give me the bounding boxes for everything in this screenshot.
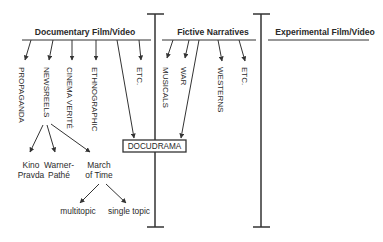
label-kino-pravda: KinoPravda (18, 160, 45, 180)
label-fictive-etc: ETC. (240, 67, 249, 85)
label-westerns: WESTERNS (216, 67, 225, 112)
arrow-fictive-to-docudrama (181, 40, 199, 138)
divider-left (147, 14, 164, 227)
label-musicals: MUSICALS (161, 67, 170, 108)
label-cinema-verite: CINEMA VERITÉ (65, 67, 74, 129)
arrow-kino-pravda (30, 125, 43, 152)
arrow-propaganda (25, 40, 31, 60)
header-fictive: Fictive Narratives (177, 27, 249, 37)
label-single-topic: single topic (108, 206, 150, 216)
label-docudrama: DOCUDRAMA (128, 142, 182, 151)
arrow-single-topic (106, 184, 126, 203)
label-ethnographic: ETHNOGRAPHIC (90, 67, 99, 132)
arrow-musicals (167, 40, 173, 58)
label-warner-pathe: Warner-Pathé (44, 160, 74, 180)
docudrama-box: DOCUDRAMA (123, 140, 186, 152)
arrow-war (185, 40, 189, 58)
arrow-multitopic (80, 184, 99, 203)
header-experimental: Experimental Film/Video (275, 27, 375, 37)
header-documentary: Documentary Film/Video (35, 27, 136, 37)
label-war: WAR (179, 67, 188, 86)
label-doc-etc: ETC. (135, 67, 144, 85)
arrow-westerns (218, 40, 222, 61)
arrow-warner-pathe (47, 125, 55, 152)
label-newsreels: NEWSREELS (42, 67, 51, 117)
label-multitopic: multitopic (60, 206, 95, 216)
arrow-doc-to-docudrama (117, 40, 134, 138)
divider-right (253, 14, 270, 227)
film-genre-diagram: Documentary Film/Video Fictive Narrative… (0, 0, 383, 242)
arrow-fictive-etc (239, 40, 245, 61)
arrow-newsreels (49, 40, 53, 60)
label-propaganda: PROPAGANDA (17, 67, 26, 124)
label-march-of-time: Marchof Time (85, 160, 113, 180)
arrow-doc-etc (139, 40, 141, 60)
